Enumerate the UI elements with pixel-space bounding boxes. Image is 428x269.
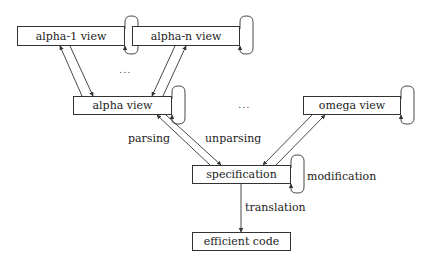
loop-omega — [401, 86, 414, 124]
ellipsis-middle: ... — [238, 99, 251, 110]
edge-alpha-to-alpha1 — [60, 46, 82, 96]
ellipsis-top: ... — [119, 64, 132, 75]
node-efficient-code: efficient code — [192, 232, 291, 251]
edge-alphan-to-alpha — [152, 46, 175, 96]
node-label: alpha-1 view — [36, 30, 107, 43]
node-label: efficient code — [204, 235, 279, 248]
edge-label-modification: modification — [307, 170, 376, 183]
node-label: specification — [206, 168, 277, 181]
node-specification: specification — [192, 165, 291, 184]
edge-alpha1-to-alpha — [70, 46, 93, 96]
loop-spec — [291, 155, 304, 193]
node-omega-view: omega view — [303, 96, 401, 115]
loop-alpha — [172, 86, 185, 124]
node-label: omega view — [319, 99, 385, 112]
edge-label-translation: translation — [245, 201, 306, 214]
node-label: alpha-n view — [151, 30, 222, 43]
node-label: alpha view — [93, 99, 153, 112]
edge-alpha-to-alphan — [163, 46, 186, 96]
edge-label-unparsing: unparsing — [205, 132, 261, 145]
node-alphan-view: alpha-n view — [132, 26, 240, 46]
edge-spec-to-omega — [276, 115, 325, 165]
node-alpha1-view: alpha-1 view — [17, 26, 125, 46]
edge-omega-to-spec — [263, 115, 312, 165]
loop-alphan — [240, 16, 253, 54]
node-alpha-view: alpha view — [73, 96, 172, 115]
edge-label-parsing: parsing — [128, 132, 170, 145]
